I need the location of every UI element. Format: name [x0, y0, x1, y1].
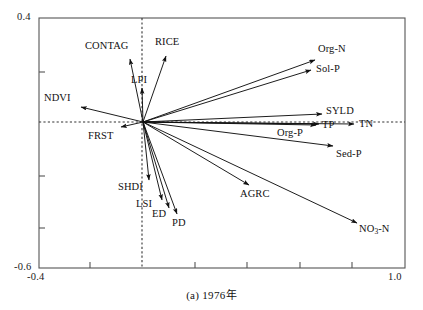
vector-label-shdi: SHDI: [118, 181, 143, 192]
vector-label-sed-p: Sed-P: [336, 148, 362, 159]
vector-label-contag: CONTAG: [85, 40, 129, 51]
vector-label-pd: PD: [172, 217, 186, 228]
vector-label-sol-p: Sol-P: [316, 63, 340, 74]
vector-SolP: [143, 70, 311, 122]
vector-label-ed: ED: [152, 208, 166, 219]
plot-frame: [39, 18, 405, 268]
origin-gridlines: [39, 18, 405, 268]
figure-caption: (a) 1976年: [0, 286, 423, 302]
x-axis-ticks: [90, 262, 352, 268]
vector-SedP: [143, 122, 333, 146]
loading-vectors: [81, 56, 357, 223]
vector-label-syld: SYLD: [326, 105, 354, 116]
no3n-prefix: NO: [359, 223, 374, 234]
vector-label-org-p: Org-P: [277, 127, 303, 138]
vector-label-lpi: LPI: [131, 74, 147, 85]
x-axis-min-label: -0.4: [27, 271, 44, 282]
vector-label-agrc: AGRC: [240, 188, 270, 199]
x-axis-max-label: 1.0: [388, 271, 402, 282]
vector-label-no3-n: NO3-N: [359, 223, 390, 236]
vector-NDVI: [81, 107, 143, 122]
no3n-suffix: -N: [378, 223, 389, 234]
vector-label-lsi: LSI: [136, 198, 152, 209]
vector-label-rice: RICE: [155, 36, 179, 47]
vector-label-frst: FRST: [88, 130, 114, 141]
biplot-figure: 0.4 -0.6 -0.4 1.0 NDVI FRST CONTAG RICE …: [0, 0, 423, 310]
vector-SYLD: [143, 114, 322, 122]
y-axis-max-label: 0.4: [17, 11, 31, 22]
vector-label-ndvi: NDVI: [44, 92, 71, 103]
vector-label-org-n: Org-N: [318, 43, 346, 54]
vector-OrgN: [143, 60, 315, 122]
vector-FRST: [121, 122, 143, 127]
vector-RICE: [143, 56, 166, 122]
vector-LSI: [143, 122, 162, 200]
vector-CONTAG: [130, 59, 143, 122]
vector-label-tn: TN: [359, 118, 373, 129]
vector-label-tp: TP: [322, 119, 334, 130]
